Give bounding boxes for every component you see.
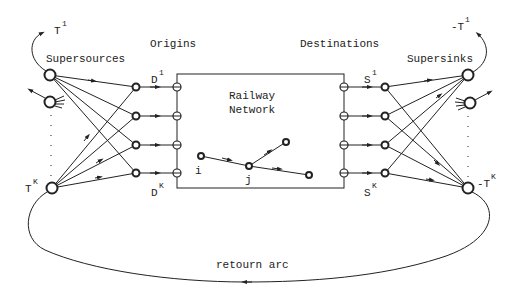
DK-symbol: D [151,187,158,199]
supersink-2-fan [455,98,465,110]
supersource-1 [45,70,56,81]
supersink-2 [465,98,476,109]
node-i-label: i [195,165,202,177]
internal-network-edges [201,142,309,175]
network-flow-diagram: Railway Network i j [0,0,519,291]
T1-superscript: 1 [62,19,67,28]
SK-superscript: K [372,181,377,190]
D1-symbol: D [151,74,158,86]
D1-superscript: 1 [159,68,164,77]
node-i [198,153,204,159]
destinations-label: Destinations [300,38,379,50]
network-label-line1: Railway [229,90,276,102]
SK-symbol: S [364,187,371,199]
supersource-2 [45,97,56,108]
origin-links [139,87,173,173]
node-j [246,163,252,169]
supersinks-label: Supersinks [407,53,473,65]
S1-symbol: S [364,74,371,86]
node-branch-upper [283,139,289,145]
supersink-K [463,183,474,194]
supersource-2-arc [30,90,45,98]
negT1-demand-arc [473,34,486,72]
negT1-symbol: -T [451,21,465,33]
origin-nodes [133,84,140,177]
TK-symbol: T [25,183,32,195]
network-label-line2: Network [229,104,276,116]
TK-superscript: K [33,177,38,186]
supersource-arcs [50,75,136,188]
destination-nodes [382,84,389,177]
T1-symbol: T [54,25,61,37]
S1-superscript: 1 [372,68,377,77]
supersink-1 [463,70,474,81]
supersink-2-arc [475,92,490,100]
supersource-K [47,183,58,194]
negT1-superscript: 1 [465,15,470,24]
supersink-arcs [385,75,468,188]
negTK-symbol: -T [477,178,491,190]
destination-links [347,87,382,173]
return-arc-label: retourn arc [216,259,289,271]
node-j-label: j [245,174,252,186]
supersource-2-fan [55,96,65,108]
negTK-superscript: K [491,172,496,181]
DK-superscript: K [159,181,164,190]
T1-supply-arc [32,33,46,71]
origins-label: Origins [150,38,196,50]
supersources-label: Supersources [46,53,125,65]
node-branch-lower [306,172,312,178]
